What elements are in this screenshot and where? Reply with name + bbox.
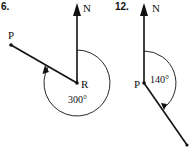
bearing-diagrams: 6. N P R 300° 12. N P 140° [0, 0, 192, 147]
point-label-r: R [81, 78, 89, 90]
point-p [142, 81, 146, 85]
diagram-number: 12. [115, 1, 129, 12]
diagram-12: 12. N P 140° [115, 1, 189, 147]
point-label-p: P [134, 78, 140, 90]
north-arrow-icon [140, 3, 148, 16]
end-point [185, 143, 188, 146]
diagram-6: 6. N P R 300° [1, 1, 110, 116]
north-label: N [83, 2, 91, 14]
north-label: N [152, 2, 160, 14]
diagram-number: 6. [1, 1, 10, 12]
point-label-p: P [8, 29, 14, 41]
angle-label: 300° [68, 94, 87, 105]
point-p [9, 43, 13, 47]
angle-label: 140° [150, 74, 169, 85]
bearing-line [144, 83, 187, 145]
north-arrow-icon [73, 3, 81, 16]
point-r [75, 81, 79, 85]
